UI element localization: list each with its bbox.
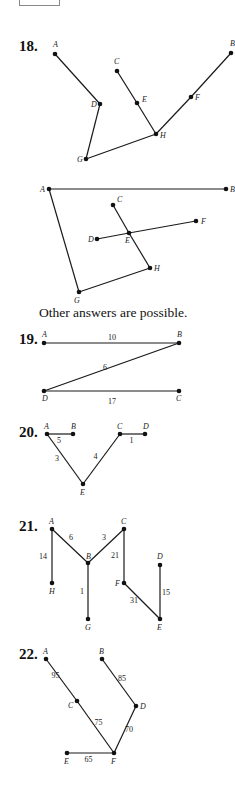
p18b-vertex-G — [77, 290, 82, 295]
p18b-vertex-F — [194, 219, 199, 224]
p18b-vertex-label-F: F — [200, 217, 206, 226]
p18b-edge-EH — [129, 233, 150, 268]
p18a-edge-DG — [86, 104, 100, 159]
p19-vertex-label-B: B — [177, 330, 182, 339]
p19-weight-DC: 17 — [108, 397, 116, 406]
p21-vertex-H — [50, 581, 55, 586]
p18b-vertex-label-G: G — [74, 296, 80, 305]
p20-vertex-label-B: B — [71, 422, 76, 431]
p18a-vertex-B — [229, 51, 234, 56]
p20-vertex-label-E: E — [79, 488, 85, 497]
p18a-vertex-label-A: A — [52, 40, 58, 49]
p18b-vertex-label-H: H — [153, 264, 161, 273]
p18b-vertex-A — [47, 187, 52, 192]
p22-vertex-C — [75, 699, 80, 704]
p22-vertex-label-D: D — [139, 702, 146, 711]
p20-vertex-C — [118, 432, 123, 437]
p21-weight-BC: 3 — [102, 533, 106, 542]
p21-weight-AB: 6 — [69, 533, 73, 542]
p18a-vertex-F — [189, 95, 194, 100]
p22-edge-BD — [102, 659, 136, 706]
p22-vertex-label-F: F — [110, 757, 116, 766]
p21-vertex-E — [158, 617, 163, 622]
p19-vertex-A — [42, 341, 47, 346]
p20-weight-AB: 5 — [57, 436, 61, 445]
p21-vertex-label-C: C — [121, 517, 127, 526]
p18b-edge-EF — [129, 221, 196, 233]
p22-vertex-label-B: B — [99, 647, 104, 656]
p22-edge-AC — [46, 659, 77, 701]
p18b-edge-AG — [49, 189, 79, 292]
p22-weight-EF: 65 — [85, 755, 93, 764]
p18b-vertex-label-A: A — [39, 185, 45, 194]
p18a-vertex-H — [154, 132, 159, 137]
p18a-vertex-G — [84, 157, 89, 162]
p20-vertex-E — [81, 482, 86, 487]
p18b-vertex-label-E: E — [124, 236, 130, 245]
p21-vertex-label-E: E — [156, 623, 162, 632]
p21-weight-FE: 31 — [130, 596, 138, 605]
p22-vertex-E — [65, 751, 70, 756]
p20-weight-AE: 3 — [55, 454, 59, 463]
p20-vertex-A — [45, 432, 50, 437]
p18a-vertex-E — [135, 101, 140, 106]
p21-vertex-label-G: G — [85, 623, 91, 632]
p22-vertex-label-C: C — [68, 701, 74, 710]
p21-vertex-F — [122, 581, 127, 586]
p21-vertex-label-B: B — [86, 552, 91, 561]
p18a-vertex-label-H: H — [159, 131, 167, 140]
p18b-vertex-C — [111, 203, 116, 208]
p19-vertex-D — [42, 389, 47, 394]
p22-vertex-F — [112, 751, 117, 756]
p19-weight-AB: 10 — [108, 333, 116, 342]
p18b-vertex-label-D: D — [87, 235, 94, 244]
p20-weight-CD: 1 — [130, 436, 134, 445]
p18b-vertex-D — [95, 237, 100, 242]
p21-vertex-D — [158, 563, 163, 568]
p18a-vertex-A — [53, 52, 58, 57]
p20-vertex-label-D: D — [142, 422, 149, 431]
p18a-vertex-label-F: F — [194, 93, 200, 102]
p22-weight-AC: 95 — [52, 671, 60, 680]
p18a-edge-CE — [117, 71, 137, 103]
p18a-edge-GH — [86, 134, 156, 159]
p18a-edge-EH — [137, 103, 156, 134]
p21-vertex-C — [122, 527, 127, 532]
p22-vertex-A — [44, 657, 49, 662]
p19-weight-BD: 6 — [103, 363, 107, 372]
p21-weight-AH: 14 — [39, 552, 47, 561]
p19-vertex-label-A: A — [41, 330, 47, 339]
p18b-edge-GH — [79, 268, 150, 292]
p21-vertex-B — [86, 561, 91, 566]
p20-weight-EC: 4 — [94, 452, 98, 461]
p18a-edge-AD — [55, 54, 100, 104]
p20-edge-AE — [47, 434, 83, 484]
p19-vertex-label-D: D — [41, 394, 48, 403]
p20-vertex-B — [71, 432, 76, 437]
p18b-vertex-label-B: B — [230, 185, 235, 194]
p22-edge-CF — [77, 701, 114, 753]
p18a-edge-HF — [156, 97, 191, 134]
p22-vertex-label-A: A — [42, 647, 48, 656]
p22-weight-CF: 75 — [95, 718, 103, 727]
p18b-vertex-E — [127, 231, 132, 236]
p19-vertex-C — [177, 389, 182, 394]
p21-vertex-A — [50, 527, 55, 532]
p22-vertex-B — [100, 657, 105, 662]
p21-weight-CF: 21 — [111, 551, 119, 560]
p18b-vertex-B — [224, 187, 229, 192]
p18b-vertex-label-C: C — [117, 195, 123, 204]
p18a-edge-FB — [191, 53, 231, 97]
p18b-edge-CE — [113, 205, 129, 233]
p21-vertex-label-H: H — [48, 587, 56, 596]
p18a-vertex-label-E: E — [141, 95, 147, 104]
p18a-vertex-label-G: G — [77, 155, 83, 164]
p21-weight-BG: 1 — [80, 587, 84, 596]
p21-vertex-label-A: A — [48, 517, 54, 526]
p20-vertex-label-C: C — [117, 422, 123, 431]
p22-vertex-label-E: E — [63, 757, 69, 766]
p20-edge-EC — [83, 434, 120, 484]
p18a-vertex-C — [115, 69, 120, 74]
p21-vertex-label-F: F — [114, 579, 120, 588]
p18a-vertex-label-B: B — [230, 39, 235, 48]
